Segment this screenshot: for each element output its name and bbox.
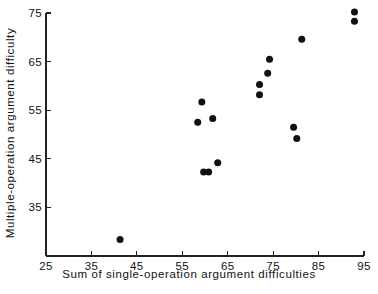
y-tick-label: 75 <box>24 7 42 19</box>
scatter-plot-figure: 2535455565758595 3545556575 Sum of singl… <box>0 0 378 294</box>
plot-canvas <box>0 0 378 294</box>
data-point <box>298 36 305 43</box>
data-point <box>214 159 221 166</box>
y-tick-label: 55 <box>24 104 42 116</box>
data-point <box>205 168 212 175</box>
y-axis-title: Multiple-operation argument difficulty <box>4 28 16 239</box>
y-axis-ticks <box>46 13 51 207</box>
y-tick-label: 35 <box>24 201 42 213</box>
data-point <box>256 81 263 88</box>
data-point <box>256 91 263 98</box>
data-point <box>194 119 201 126</box>
data-point <box>198 98 205 105</box>
data-point <box>351 18 358 25</box>
x-tick-label: 25 <box>39 260 53 272</box>
data-point <box>266 56 273 63</box>
y-tick-label: 45 <box>24 153 42 165</box>
data-point <box>209 115 216 122</box>
data-point <box>290 124 297 131</box>
y-tick-label: 65 <box>24 56 42 68</box>
x-axis-ticks <box>46 251 364 256</box>
data-point <box>117 236 124 243</box>
data-point <box>351 9 358 16</box>
data-point <box>264 70 271 77</box>
x-axis-title: Sum of single-operation argument difficu… <box>62 268 316 280</box>
x-tick-label: 95 <box>357 260 371 272</box>
data-points <box>117 9 358 243</box>
data-point <box>293 135 300 142</box>
axes-lines <box>46 13 364 256</box>
